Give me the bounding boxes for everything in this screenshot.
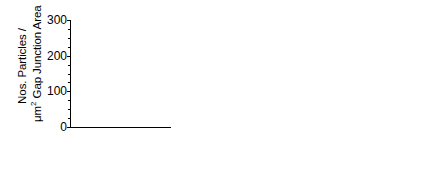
y-tick-minor [68,100,71,101]
y-tick-minor [68,74,71,75]
y-tick-label-100: 100 [47,85,67,97]
y-tick-label-0: 0 [60,121,67,133]
y-tick-label-300: 300 [47,14,67,26]
y-tick-300 [67,20,71,21]
y-tick-minor [68,29,71,30]
y-tick-200 [67,56,71,57]
y-tick-100 [67,91,71,92]
y-tick-minor [68,118,71,119]
y-tick-label-200: 200 [47,50,67,62]
y-tick-minor [68,82,71,83]
y-tick-minor [68,109,71,110]
panel-a: 0100200300 [0,0,438,184]
figure-panel-group: Nos. Particles / μm2 Gap Junction Area 0… [0,0,438,184]
y-tick-0 [67,127,71,128]
y-tick-minor [68,47,71,48]
plot-area-a: 0100200300 [70,20,171,128]
y-tick-minor [68,38,71,39]
y-tick-minor [68,65,71,66]
